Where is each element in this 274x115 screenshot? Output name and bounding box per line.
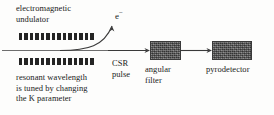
csr-pulse-label: CSR pulse	[112, 58, 130, 79]
filter-to-detector-arrow-icon	[181, 48, 212, 53]
csr-pulse-arrow-icon	[108, 48, 150, 53]
k-parameter-tuning-note: resonant wavelength is tuned by changing…	[16, 72, 88, 104]
electron-deflection-arrow-icon	[60, 26, 114, 51]
figure-canvas: electromagnetic undulator e− CSR pulse a…	[0, 0, 274, 115]
pyrodetector-label: pyrodetector	[206, 64, 250, 75]
pyrodetector-component	[212, 41, 252, 60]
angular-filter-label: angular filter	[145, 64, 171, 85]
angular-filter-component	[150, 41, 181, 60]
